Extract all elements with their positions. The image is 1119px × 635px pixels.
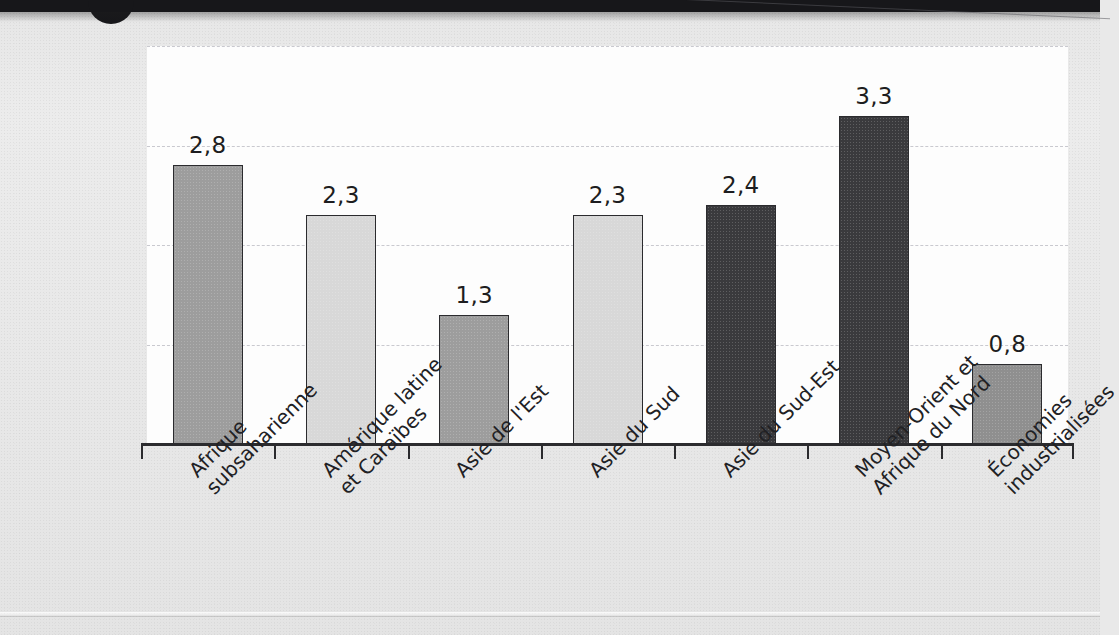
x-axis-left-cap <box>141 443 143 459</box>
bar-6 <box>839 116 909 444</box>
bar-texture <box>174 166 242 443</box>
bar-texture <box>307 216 375 443</box>
x-tick-5 <box>807 446 809 459</box>
bar-texture <box>574 216 642 443</box>
bar-2 <box>306 215 376 444</box>
value-label-1: 2,8 <box>163 132 253 158</box>
x-tick-2 <box>408 446 410 459</box>
bar-1 <box>173 165 243 444</box>
value-label-4: 2,3 <box>563 182 653 208</box>
x-tick-3 <box>541 446 543 459</box>
value-label-3: 1,3 <box>429 282 519 308</box>
bar-5 <box>706 205 776 444</box>
gridline-3 <box>147 146 1068 147</box>
bar-texture <box>840 117 908 443</box>
value-label-7: 0,8 <box>962 331 1052 357</box>
bar-4 <box>573 215 643 444</box>
gridline-4 <box>147 46 1068 47</box>
x-tick-6 <box>941 446 943 459</box>
value-label-6: 3,3 <box>829 83 919 109</box>
value-label-2: 2,3 <box>296 182 386 208</box>
x-tick-4 <box>674 446 676 459</box>
bar-texture <box>707 206 775 443</box>
value-label-5: 2,4 <box>696 172 786 198</box>
x-axis-right-cap <box>1072 443 1074 459</box>
x-tick-1 <box>274 446 276 459</box>
